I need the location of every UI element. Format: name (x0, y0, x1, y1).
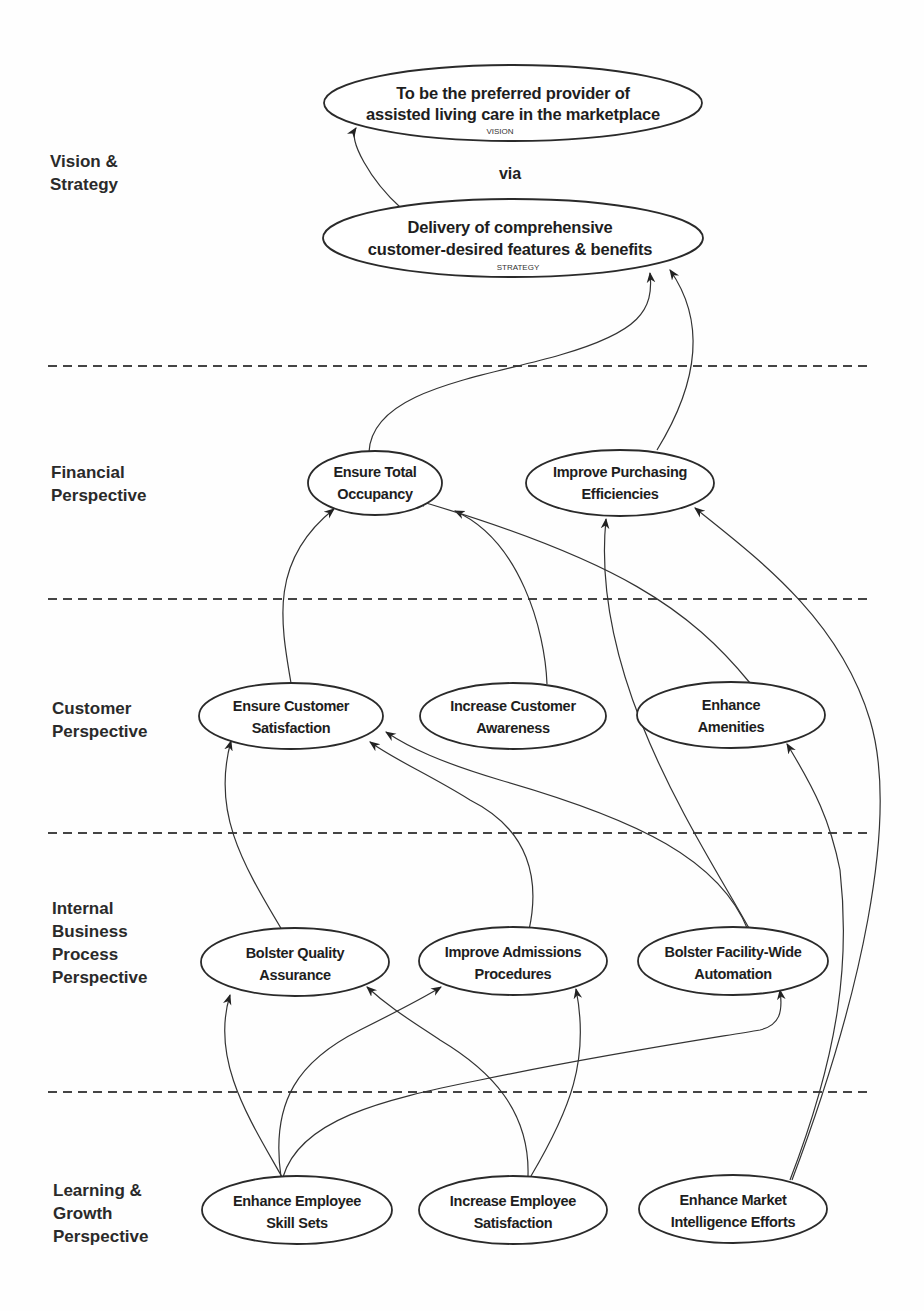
node-text: Automation (694, 966, 772, 982)
node-text: Enhance (702, 697, 761, 713)
edges (225, 128, 880, 1180)
node-text: Increase Customer (450, 698, 576, 714)
node-improve-purchasing-efficiencies: Improve Purchasing Efficiencies (526, 450, 714, 516)
edge-quality-to-custsat (225, 741, 282, 930)
node-text: Delivery of comprehensive (407, 218, 612, 236)
row-label-line: Internal (52, 899, 113, 918)
node-text: Ensure Customer (233, 698, 350, 714)
edge-occupancy-to-strategy (369, 273, 651, 452)
node-ensure-customer-satisfaction: Ensure Customer Satisfaction (199, 683, 383, 749)
row-label-internal-business-process: Internal Business Process Perspective (52, 899, 147, 987)
node-bolster-quality-assurance: Bolster Quality Assurance (201, 928, 389, 996)
row-label-learning-growth: Learning & Growth Perspective (53, 1181, 148, 1246)
row-label-line: Business (52, 922, 128, 941)
edge-skills-to-admissions (279, 987, 441, 1177)
node-enhance-market-intelligence-efforts: Enhance Market Intelligence Efforts (639, 1175, 827, 1243)
node-text: Occupancy (337, 486, 413, 502)
via-label: via (499, 165, 521, 182)
node-text: Procedures (475, 966, 552, 982)
row-label-line: Growth (53, 1204, 113, 1223)
node-tag: STRATEGY (497, 263, 540, 272)
edge-skills-to-quality (225, 995, 282, 1177)
node-text: Assurance (259, 967, 331, 983)
edge-awareness-to-occupancy (455, 511, 547, 684)
edge-empsat-to-quality (367, 987, 528, 1176)
node-increase-employee-satisfaction: Increase Employee Satisfaction (419, 1176, 607, 1244)
node-text: Skill Sets (266, 1215, 328, 1231)
node-text: Intelligence Efforts (671, 1214, 796, 1230)
node-text: Enhance Market (679, 1192, 786, 1208)
node-text: Enhance Employee (233, 1193, 361, 1209)
row-label-line: Process (52, 945, 118, 964)
node-enhance-employee-skill-sets: Enhance Employee Skill Sets (202, 1176, 392, 1244)
row-label-line: Financial (51, 463, 125, 482)
node-text: Satisfaction (474, 1215, 553, 1231)
node-text: Increase Employee (450, 1193, 577, 1209)
node-text: Satisfaction (252, 720, 331, 736)
node-strategy: Delivery of comprehensive customer-desir… (323, 199, 703, 277)
row-label-customer: Customer Perspective (52, 699, 147, 741)
row-label-line: Perspective (52, 968, 147, 987)
node-bolster-facility-wide-automation: Bolster Facility-Wide Automation (638, 927, 828, 995)
row-label-vision-strategy: Vision & Strategy (50, 152, 119, 194)
row-label-line: Learning & (53, 1181, 142, 1200)
row-label-line: Strategy (50, 175, 119, 194)
node-increase-customer-awareness: Increase Customer Awareness (420, 683, 606, 749)
edge-strategy-to-vision (354, 128, 401, 208)
node-text: assisted living care in the marketplace (366, 105, 660, 123)
row-label-line: Customer (52, 699, 132, 718)
edge-marketintel-to-purchasing (695, 508, 880, 1180)
node-text: To be the preferred provider of (396, 84, 630, 102)
row-label-line: Vision & (50, 152, 118, 171)
edge-skills-to-automation (283, 990, 781, 1177)
edge-admissions-to-custsat (370, 742, 533, 930)
node-text: Awareness (476, 720, 550, 736)
row-label-financial: Financial Perspective (51, 463, 146, 505)
edge-custsat-to-occupancy (283, 509, 334, 683)
node-text: Amenities (698, 719, 765, 735)
edge-amenities-to-occupancy (416, 500, 750, 683)
node-text: Improve Admissions (445, 944, 582, 960)
node-enhance-amenities: Enhance Amenities (637, 682, 825, 748)
node-improve-admissions-procedures: Improve Admissions Procedures (419, 927, 607, 995)
node-text: Improve Purchasing (553, 464, 687, 480)
node-text: Efficiencies (582, 486, 659, 502)
edge-empsat-to-admissions (531, 989, 580, 1176)
row-label-line: Perspective (52, 722, 147, 741)
node-text: Bolster Facility-Wide (665, 944, 802, 960)
row-label-line: Perspective (51, 486, 146, 505)
edge-purchasing-to-strategy (657, 270, 693, 450)
node-text: Ensure Total (333, 464, 416, 480)
node-text: customer-desired features & benefits (368, 240, 652, 258)
node-text: Bolster Quality (246, 945, 345, 961)
node-tag: VISION (486, 127, 513, 136)
row-label-line: Perspective (53, 1227, 148, 1246)
node-ensure-total-occupancy: Ensure Total Occupancy (308, 451, 442, 515)
node-vision: To be the preferred provider of assisted… (324, 65, 702, 141)
strategy-map-diagram: Vision & Strategy Financial Perspective … (0, 0, 924, 1311)
